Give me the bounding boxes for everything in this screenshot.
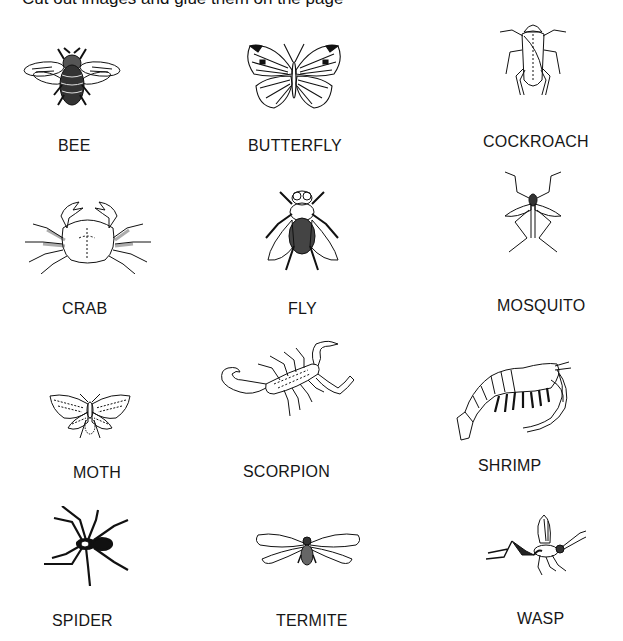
scorpion-label: SCORPION <box>243 463 330 481</box>
moth-icon <box>48 392 132 440</box>
shrimp-icon <box>455 358 571 442</box>
fly-label: FLY <box>288 300 317 318</box>
termite-icon <box>254 531 364 569</box>
wasp-label: WASP <box>517 610 564 628</box>
butterfly-label: BUTTERFLY <box>248 137 342 155</box>
crab-icon <box>23 198 153 274</box>
cut-off-instruction-text: Cut out images and glue them on the page <box>22 0 343 9</box>
scorpion-icon <box>218 340 354 420</box>
shrimp-label: SHRIMP <box>478 457 541 475</box>
spider-icon <box>42 506 132 588</box>
bee-icon <box>22 45 122 110</box>
crab-label: CRAB <box>62 300 107 318</box>
cockroach-icon <box>498 20 568 95</box>
moth-label: MOTH <box>73 464 121 482</box>
spider-label: SPIDER <box>52 612 113 630</box>
bee-label: BEE <box>58 137 91 155</box>
fly-icon <box>264 184 344 272</box>
mosquito-label: MOSQUITO <box>497 297 585 315</box>
cockroach-label: COCKROACH <box>483 133 589 151</box>
mosquito-icon <box>503 170 563 262</box>
butterfly-icon <box>244 40 344 112</box>
wasp-icon <box>486 515 586 579</box>
termite-label: TERMITE <box>276 612 348 630</box>
